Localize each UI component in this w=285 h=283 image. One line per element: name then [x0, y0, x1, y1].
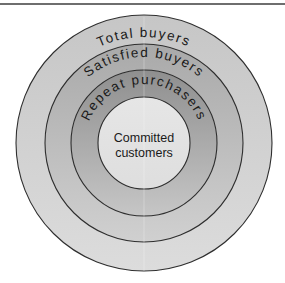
loyalty-circles-diagram: Total buyers Satisfied buyers Repeat pur… — [0, 0, 285, 283]
core-label-line2: customers — [115, 146, 173, 160]
core-label-line1: Committed — [114, 131, 174, 145]
